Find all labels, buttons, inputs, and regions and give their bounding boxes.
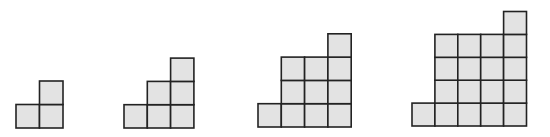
unit-square — [504, 12, 527, 35]
unit-square — [504, 80, 527, 103]
unit-square — [435, 80, 458, 103]
figure-4 — [412, 12, 527, 127]
unit-square — [481, 57, 504, 80]
unit-square — [147, 81, 170, 104]
unit-square — [147, 105, 170, 128]
unit-square — [504, 34, 527, 57]
unit-square — [305, 104, 328, 127]
diagram-canvas — [0, 0, 550, 137]
unit-square — [504, 57, 527, 80]
unit-square — [458, 34, 481, 57]
unit-square — [171, 81, 194, 104]
unit-square — [435, 57, 458, 80]
unit-square — [171, 105, 194, 128]
unit-square — [40, 81, 64, 105]
unit-square — [305, 57, 328, 80]
unit-square — [305, 80, 328, 103]
unit-square — [281, 104, 304, 127]
unit-square — [481, 80, 504, 103]
figure-2 — [124, 58, 194, 128]
unit-square — [328, 104, 351, 127]
unit-square — [481, 103, 504, 126]
figure-1 — [16, 81, 63, 128]
unit-square — [412, 103, 435, 126]
unit-square — [435, 103, 458, 126]
unit-square — [258, 104, 281, 127]
unit-square — [458, 103, 481, 126]
figures-svg — [0, 0, 550, 137]
unit-square — [16, 105, 40, 129]
unit-square — [458, 80, 481, 103]
unit-square — [328, 34, 351, 57]
unit-square — [481, 34, 504, 57]
unit-square — [281, 57, 304, 80]
figure-3 — [258, 34, 351, 127]
unit-square — [328, 57, 351, 80]
unit-square — [40, 105, 64, 129]
unit-square — [171, 58, 194, 81]
unit-square — [328, 80, 351, 103]
unit-square — [281, 80, 304, 103]
unit-square — [504, 103, 527, 126]
unit-square — [124, 105, 147, 128]
unit-square — [458, 57, 481, 80]
unit-square — [435, 34, 458, 57]
